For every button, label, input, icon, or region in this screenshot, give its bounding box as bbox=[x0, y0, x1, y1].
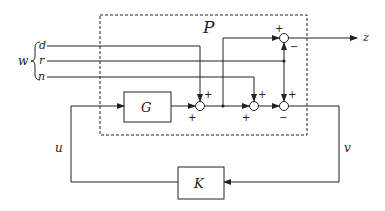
signal-u-label: u bbox=[55, 141, 63, 155]
signal-n-label: n bbox=[38, 70, 45, 83]
summing-junction-1 bbox=[196, 102, 205, 111]
summing-junction-2 bbox=[250, 102, 259, 111]
signal-z-label: z bbox=[362, 31, 369, 44]
signal-w-label: w bbox=[18, 54, 29, 68]
top-sum-sign-plus: + bbox=[275, 23, 283, 34]
sum1-sign-top: + bbox=[204, 89, 212, 100]
sum3-sign-left: − bbox=[279, 112, 287, 123]
sum2-sign-left: + bbox=[242, 112, 250, 123]
summing-junction-3 bbox=[280, 102, 289, 111]
sum3-sign-top: + bbox=[288, 89, 296, 100]
plant-label: P bbox=[202, 17, 215, 37]
summing-junction-top bbox=[280, 34, 289, 43]
signal-d-label: d bbox=[39, 39, 46, 52]
signal-y-to-top-sum bbox=[223, 38, 279, 106]
block-K-label: K bbox=[193, 176, 205, 191]
signal-v-label: v bbox=[344, 141, 351, 155]
signal-r-label: r bbox=[39, 54, 45, 67]
block-diagram: P w d r n G u + + + + + − v K + − z bbox=[0, 0, 385, 211]
top-sum-sign-minus: − bbox=[290, 41, 298, 52]
sum1-sign-left: + bbox=[188, 112, 196, 123]
block-G-label: G bbox=[141, 100, 151, 115]
sum2-sign-top: + bbox=[258, 89, 266, 100]
